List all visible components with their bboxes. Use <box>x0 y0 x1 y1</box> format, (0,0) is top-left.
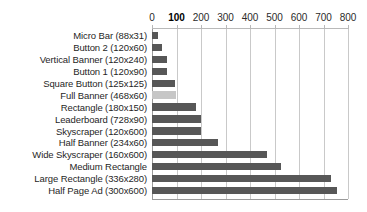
bar <box>152 91 176 98</box>
bar-row: Full Banner (468x60) <box>0 89 367 101</box>
bar-track <box>152 89 348 101</box>
bar <box>152 175 331 182</box>
x-tick-label: 100 <box>168 12 185 23</box>
bar-row: Leaderboard (728x90) <box>0 113 367 125</box>
bar <box>152 56 167 63</box>
bar-category-label: Rectangle (180x150) <box>0 102 147 113</box>
bar <box>152 115 201 122</box>
bar-category-label: Half Banner (234x60) <box>0 137 147 148</box>
bar <box>152 44 162 51</box>
bar-category-label: Micro Bar (88x31) <box>0 30 147 41</box>
bar-track <box>152 78 348 90</box>
bar-row: Large Rectangle (336x280) <box>0 173 367 185</box>
bar-row: Rectangle (180x150) <box>0 101 367 113</box>
x-tick-label: 400 <box>242 12 259 23</box>
bar-category-label: Square Button (125x125) <box>0 78 147 89</box>
bar-track <box>152 149 348 161</box>
bar <box>152 187 337 194</box>
bar-track <box>152 137 348 149</box>
bar-category-label: Wide Skyscraper (160x600) <box>0 149 147 160</box>
x-axis-tick-labels: 0100200300400500600700800 <box>0 12 367 24</box>
bar-category-label: Half Page Ad (300x600) <box>0 185 147 196</box>
bar-track <box>152 66 348 78</box>
bar-category-label: Button 1 (120x90) <box>0 66 147 77</box>
bar-category-label: Skyscraper (120x600) <box>0 126 147 137</box>
bar-chart: 0100200300400500600700800 Micro Bar (88x… <box>0 0 367 212</box>
bar-category-label: Medium Rectangle <box>0 161 147 172</box>
bar-track <box>152 42 348 54</box>
bar-row: Wide Skyscraper (160x600) <box>0 149 367 161</box>
bar-category-label: Button 2 (120x60) <box>0 42 147 53</box>
x-tick-label: 300 <box>217 12 234 23</box>
x-axis-baseline <box>152 199 348 200</box>
x-tick-label: 800 <box>340 12 357 23</box>
bar <box>152 139 218 146</box>
bar-row: Half Page Ad (300x600) <box>0 185 367 197</box>
bar-row: Button 2 (120x60) <box>0 42 367 54</box>
bar <box>152 68 167 75</box>
x-tick-label: 500 <box>266 12 283 23</box>
bar <box>152 163 281 170</box>
bar <box>152 103 196 110</box>
bar <box>152 151 267 158</box>
bar-track <box>152 185 348 197</box>
bar <box>152 127 201 134</box>
x-tick-label: 600 <box>291 12 308 23</box>
bar-row: Vertical Banner (120x240) <box>0 54 367 66</box>
x-tick-label: 200 <box>193 12 210 23</box>
bar-track <box>152 113 348 125</box>
bar-category-label: Vertical Banner (120x240) <box>0 54 147 65</box>
x-tick-label: 700 <box>315 12 332 23</box>
bar-category-label: Full Banner (468x60) <box>0 90 147 101</box>
bar-row: Half Banner (234x60) <box>0 137 367 149</box>
x-tick-label: 0 <box>149 12 155 23</box>
bar <box>152 80 175 87</box>
bar-track <box>152 161 348 173</box>
bar-track <box>152 173 348 185</box>
bar-row: Square Button (125x125) <box>0 78 367 90</box>
bar-track <box>152 30 348 42</box>
bar <box>152 32 158 39</box>
bar-track <box>152 125 348 137</box>
bar-row: Button 1 (120x90) <box>0 66 367 78</box>
bar-row: Micro Bar (88x31) <box>0 30 367 42</box>
bar-rows: Micro Bar (88x31)Button 2 (120x60)Vertic… <box>0 30 367 196</box>
bar-track <box>152 54 348 66</box>
bar-track <box>152 101 348 113</box>
bar-category-label: Leaderboard (728x90) <box>0 114 147 125</box>
bar-category-label: Large Rectangle (336x280) <box>0 173 147 184</box>
bar-row: Skyscraper (120x600) <box>0 125 367 137</box>
bar-row: Medium Rectangle <box>0 161 367 173</box>
